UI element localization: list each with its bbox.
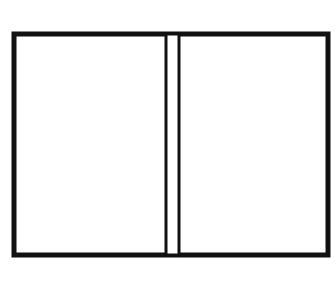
backgammon-board[interactable]	[0, 0, 336, 285]
bar[interactable]	[166, 34, 179, 255]
board-frame	[14, 34, 328, 255]
